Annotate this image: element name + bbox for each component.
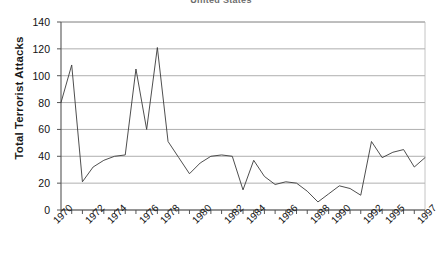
y-tick-label: 140 xyxy=(16,16,50,28)
plot-area: 0204060801001201401970197219741976197819… xyxy=(0,0,442,258)
data-line-total-terrorist-attacks xyxy=(61,48,425,202)
y-tick-label: 120 xyxy=(16,43,50,55)
chart-page: United States Total Terrorist Attacks 02… xyxy=(0,0,442,258)
y-tick-label: 60 xyxy=(16,123,50,135)
y-tick-label: 20 xyxy=(16,177,50,189)
y-tick-label: 100 xyxy=(16,70,50,82)
y-tick-label: 0 xyxy=(16,204,50,216)
y-tick-label: 40 xyxy=(16,150,50,162)
line-chart-svg xyxy=(0,0,442,258)
y-tick-label: 80 xyxy=(16,97,50,109)
